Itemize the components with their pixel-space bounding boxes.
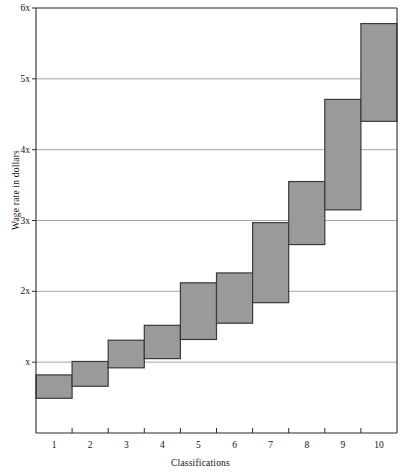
bar [325,99,361,210]
bar [144,325,180,358]
bar [36,375,72,398]
bar [108,340,144,368]
plot-area [0,0,401,473]
bar [289,182,325,245]
bars-group [36,24,397,399]
wage-rate-chart: Wage rate in dollars Classifications x2x… [0,0,401,473]
bar [217,273,253,323]
bar [361,24,397,122]
bar [253,223,289,303]
bar [72,361,108,386]
bar [180,283,216,340]
